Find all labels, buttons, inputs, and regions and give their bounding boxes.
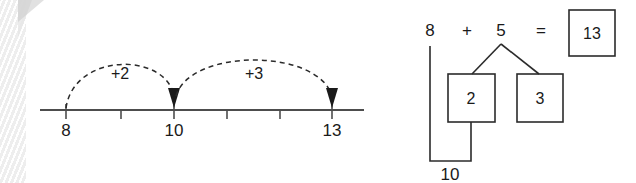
- equation-plus-sign: +: [462, 21, 472, 40]
- equation-equals-sign: =: [536, 21, 546, 40]
- number-line-group: +2 +3 8 10 13: [40, 60, 364, 140]
- bond-branch-right: [501, 44, 539, 74]
- make-ten-bracket-label: 10: [441, 165, 460, 183]
- equation-number-bond-group: 8 + 5 = 13 2 3 10: [425, 10, 615, 183]
- make-ten-bracket: [430, 46, 471, 161]
- numberline-label-8: 8: [61, 121, 70, 140]
- part-box-left-value: 2: [467, 90, 476, 107]
- jump-arrow-to-13-icon: [326, 88, 338, 108]
- equation-addend-one: 8: [425, 21, 434, 40]
- numberline-label-13: 13: [323, 121, 342, 140]
- jump-label-plus-3: +3: [245, 65, 263, 82]
- worksheet-figure: +2 +3 8 10 13 8 + 5 = 13 2 3: [0, 0, 636, 183]
- answer-box-value: 13: [583, 25, 601, 42]
- part-box-right-value: 3: [536, 90, 545, 107]
- numberline-label-10: 10: [165, 121, 184, 140]
- bond-branch-left: [472, 44, 501, 74]
- figure-canvas: +2 +3 8 10 13 8 + 5 = 13 2 3: [0, 0, 636, 183]
- jump-label-plus-2: +2: [111, 65, 129, 82]
- jump-arrow-to-10-icon: [168, 88, 180, 108]
- equation-addend-two: 5: [496, 21, 505, 40]
